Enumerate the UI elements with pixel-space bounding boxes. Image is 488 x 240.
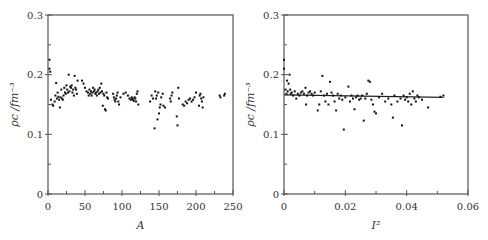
data-point [295, 98, 297, 100]
data-point [370, 99, 372, 101]
data-point [413, 98, 415, 100]
data-point [74, 75, 76, 77]
data-point [202, 106, 204, 108]
data-point [66, 89, 68, 91]
plot-frame [48, 15, 233, 194]
data-point [390, 104, 392, 106]
data-point [171, 92, 173, 94]
y-tick-label: 0.3 [263, 10, 279, 21]
data-point [292, 95, 294, 97]
x-tick-label: 0 [281, 201, 287, 212]
data-point [406, 96, 408, 98]
x-tick-label: 0.06 [457, 201, 479, 212]
data-point [117, 92, 119, 94]
x-tick-label: 0 [45, 201, 51, 212]
data-point [89, 93, 91, 95]
data-point [340, 95, 342, 97]
data-point [83, 83, 85, 85]
data-point [154, 90, 156, 92]
data-point [157, 118, 159, 120]
data-point [63, 87, 65, 89]
data-point [97, 90, 99, 92]
y-tick-label: 0 [273, 189, 279, 200]
data-point [88, 89, 90, 91]
data-point [343, 129, 345, 131]
data-point [189, 98, 191, 100]
data-point [74, 87, 76, 89]
data-point [185, 101, 187, 103]
data-point [68, 74, 70, 76]
data-point [361, 95, 363, 97]
data-point [311, 93, 313, 95]
x-tick-label: 0.04 [396, 201, 418, 212]
data-point [88, 95, 90, 97]
x-tick-label: 50 [79, 201, 92, 212]
data-point [52, 105, 54, 107]
data-point [57, 92, 59, 94]
data-point [84, 87, 86, 89]
data-point [219, 96, 221, 98]
data-point [99, 87, 101, 89]
data-point [77, 80, 79, 82]
data-point [294, 90, 296, 92]
data-point [63, 95, 65, 97]
data-point [350, 95, 352, 97]
data-point [202, 96, 204, 98]
data-point [224, 93, 226, 95]
data-point [354, 108, 356, 110]
data-point [327, 104, 329, 106]
x-axis-label: A [136, 219, 145, 232]
data-point [409, 93, 411, 95]
data-point [335, 109, 337, 111]
data-point [412, 90, 414, 92]
data-point [199, 93, 201, 95]
data-point [404, 99, 406, 101]
data-point [94, 89, 96, 91]
data-point [117, 101, 119, 103]
data-point [201, 101, 203, 103]
data-point [136, 93, 138, 95]
data-point [303, 93, 305, 95]
data-point [285, 89, 287, 91]
data-point [135, 101, 137, 103]
data-point [157, 92, 159, 94]
data-point [305, 104, 307, 106]
data-point [378, 96, 380, 98]
data-point [186, 102, 188, 104]
data-point [291, 92, 293, 94]
x-tick-label: 100 [112, 201, 131, 212]
data-point [183, 105, 185, 107]
data-point [442, 95, 444, 97]
data-point [415, 101, 417, 103]
data-point [68, 90, 70, 92]
data-point [320, 90, 322, 92]
data-point [329, 81, 331, 83]
data-point [219, 95, 221, 97]
data-point [309, 90, 311, 92]
y-tick-label: 0.1 [27, 129, 43, 140]
data-point [400, 98, 402, 100]
data-point [97, 89, 99, 91]
data-point [364, 98, 366, 100]
data-point [439, 96, 441, 98]
data-point [158, 112, 160, 114]
data-point [149, 101, 151, 103]
data-point [344, 96, 346, 98]
data-point [191, 101, 193, 103]
data-point [369, 81, 371, 83]
data-point [349, 101, 351, 103]
data-point [48, 59, 50, 61]
data-point [91, 95, 93, 97]
data-point [331, 92, 333, 94]
data-point [164, 106, 166, 108]
data-point [105, 109, 107, 111]
data-point [312, 95, 314, 97]
data-point [352, 98, 354, 100]
data-point [133, 100, 135, 102]
data-point [70, 87, 72, 89]
data-point [137, 90, 139, 92]
y-axis-label: ρc /fm⁻³ [8, 82, 21, 128]
data-point [195, 92, 197, 94]
data-point [54, 95, 56, 97]
data-point [75, 89, 77, 91]
